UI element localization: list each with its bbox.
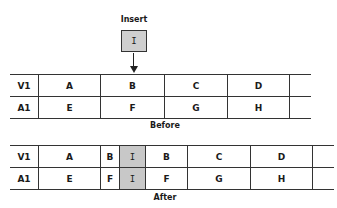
divider (289, 74, 290, 119)
divider (10, 118, 311, 119)
arrow-down-icon (130, 66, 138, 73)
table-cell: C (188, 146, 250, 167)
table-cell: F (146, 168, 187, 189)
table-cell: A (39, 146, 100, 167)
insert-label: Insert (110, 15, 158, 24)
insert-element-box: I (121, 30, 147, 52)
table-cell: G (165, 97, 227, 118)
table-cell: A (39, 75, 100, 96)
divider (312, 145, 313, 190)
table-cell: C (165, 75, 227, 96)
table-cell: F (101, 168, 119, 189)
inserted-cell: I (120, 146, 145, 167)
table-cell: D (228, 75, 289, 96)
row-header: A1 (10, 168, 38, 189)
table-cell: E (39, 168, 100, 189)
table-cell: E (39, 97, 100, 118)
table-cell: H (228, 97, 289, 118)
row-header: V1 (10, 75, 38, 96)
table-cell: F (101, 97, 164, 118)
table-cell: B (101, 146, 119, 167)
table-cell: B (101, 75, 164, 96)
table-cell: H (251, 168, 312, 189)
inserted-cell: I (120, 168, 145, 189)
table-cell: D (251, 146, 312, 167)
before-caption: Before (140, 121, 190, 130)
insert-element-value: I (131, 36, 136, 46)
divider (10, 189, 334, 190)
row-header: V1 (10, 146, 38, 167)
row-header: A1 (10, 97, 38, 118)
table-cell: G (188, 168, 250, 189)
after-caption: After (140, 193, 190, 202)
table-cell: B (146, 146, 187, 167)
